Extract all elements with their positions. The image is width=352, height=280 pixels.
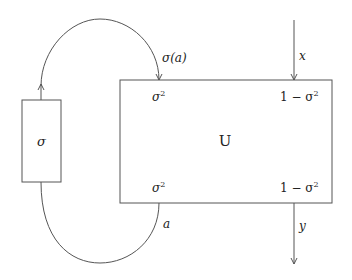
u-bottom-right-label: 1 − σ2: [280, 180, 319, 195]
bottom-arc-curve: [41, 182, 159, 263]
output-y-label: y: [298, 219, 306, 233]
u-box-label: U: [219, 132, 232, 150]
diagram-canvas: σ U σ2 1 − σ2 σ2 1 − σ2 σ(a) a x y: [0, 0, 352, 280]
u-top-right-label: 1 − σ2: [280, 89, 319, 104]
sigma-box-label: σ: [37, 134, 47, 149]
top-arc-curve: [41, 19, 159, 86]
u-bottom-left-label: σ2: [152, 180, 165, 195]
top-arc-label: σ(a): [162, 51, 187, 65]
input-x-label: x: [299, 49, 306, 63]
bottom-arc-label: a: [163, 217, 170, 231]
u-top-left-label: σ2: [152, 89, 165, 104]
